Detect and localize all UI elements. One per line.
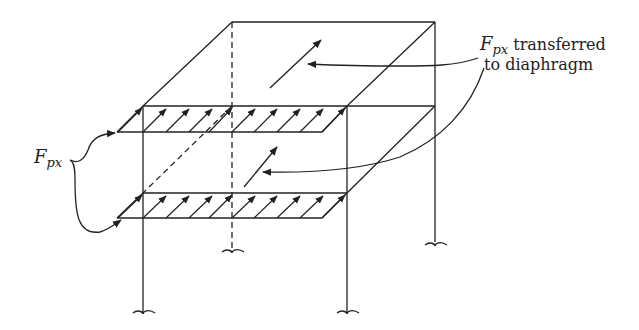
leader-to-floor (263, 68, 484, 172)
floor-diaphragm-arrow (244, 147, 277, 187)
right-force-label-line1: Fpx transferred (479, 33, 606, 57)
left-brace-lower (70, 160, 121, 232)
right-force-label-line2: to diaphragm (484, 55, 593, 74)
roof-outline (143, 22, 435, 106)
left-force-label: Fpx (33, 146, 63, 170)
left-brace-upper (70, 133, 115, 162)
upper-floor-band (117, 106, 347, 132)
diaphragm-force-diagram: Fpx Fpx transferred to diaphragm (0, 0, 639, 330)
upper-floor-outline (143, 106, 435, 193)
column-break-symbols (133, 243, 447, 314)
